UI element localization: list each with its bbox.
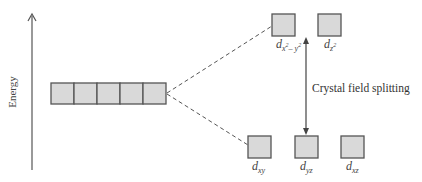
lower-orbitals — [248, 136, 364, 158]
arrow-down-icon — [303, 128, 309, 135]
degenerate-orbital-box — [51, 83, 74, 104]
orbital-label-dxy: dxy — [252, 159, 265, 175]
orbital-box-dx2-y2 — [272, 14, 295, 36]
energy-axis — [28, 14, 36, 170]
upper-orbitals — [272, 14, 341, 36]
orbital-box-dyz — [295, 136, 318, 158]
orbital-label-dxz: dxz — [346, 159, 359, 175]
dashed-line-upper — [167, 26, 272, 93]
dashed-line-lower — [167, 94, 248, 145]
splitting-lines — [167, 26, 272, 145]
orbital-label-dyz: dyz — [300, 159, 313, 175]
degenerate-orbital-set — [51, 83, 166, 104]
energy-axis-label: Energy — [6, 76, 18, 108]
degenerate-orbital-box — [74, 83, 97, 104]
crystal-field-splitting-label: Crystal field splitting — [312, 82, 410, 94]
orbital-box-dxz — [341, 136, 364, 158]
orbital-label-dx2-y2: dx2– y2 — [276, 37, 301, 53]
splitting-arrow — [303, 37, 309, 135]
orbital-box-dxy — [248, 136, 271, 158]
arrow-up-icon — [303, 37, 309, 44]
orbital-label-dz2: dz2 — [324, 37, 336, 53]
degenerate-orbital-box — [143, 83, 166, 104]
orbital-box-dz2 — [318, 14, 341, 36]
degenerate-orbital-box — [97, 83, 120, 104]
degenerate-orbital-box — [120, 83, 143, 104]
